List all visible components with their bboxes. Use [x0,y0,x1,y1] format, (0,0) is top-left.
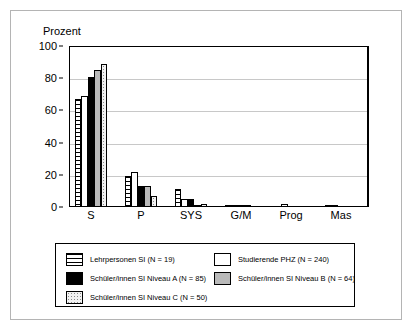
x-tick-label: P [137,209,144,221]
legend-label: Studierende PHZ (N = 240) [238,255,329,264]
gridline [70,176,367,177]
chart-legend: Lehrpersonen SI (N = 19)Studierende PHZ … [55,243,355,307]
y-tick-label: 60 [45,104,57,116]
legend-label: Schüler/innen SI Niveau A (N = 85) [90,274,206,283]
plot-area [69,46,369,207]
chart-figure: Prozent 020406080100 SPSYSG/MProgMas Leh… [10,10,402,320]
y-axis-title: Prozent [43,25,81,37]
y-tick-label: 80 [45,72,57,84]
y-tick-mark [59,78,63,79]
legend-item: Schüler/innen SI Niveau C (N = 50) [66,291,207,304]
x-tick-label: SYS [180,209,202,221]
y-tick-mark [59,174,63,175]
legend-label: Schüler/innen SI Niveau C (N = 50) [90,293,207,302]
y-tick-label: 100 [39,40,57,52]
x-tick-label: S [87,209,94,221]
legend-swatch [66,253,83,266]
legend-label: Lehrpersonen SI (N = 19) [90,255,175,264]
gridline [70,111,367,112]
y-tick-mark [59,46,63,47]
legend-item: Studierende PHZ (N = 240) [214,253,329,266]
x-tick-label: G/M [231,209,252,221]
y-tick-label: 20 [45,169,57,181]
y-tick-label: 0 [51,201,57,213]
y-tick-mark [59,207,63,208]
legend-item: Schüler/innen SI Niveau A (N = 85) [66,272,206,285]
y-tick-label: 40 [45,137,57,149]
gridline [70,79,367,80]
y-axis-ticks: 020406080100 [29,46,63,207]
x-tick-label: Prog [279,209,302,221]
x-tick-label: Mas [331,209,352,221]
legend-item: Lehrpersonen SI (N = 19) [66,253,175,266]
legend-item: Schüler/innen SI Niveau B (N = 64) [214,272,355,285]
legend-label: Schüler/innen SI Niveau B (N = 64) [238,274,355,283]
legend-swatch [66,291,83,304]
gridlines [70,47,367,206]
legend-swatch [66,272,83,285]
legend-swatch [214,253,231,266]
x-axis-ticks: SPSYSG/MProgMas [69,209,369,227]
y-tick-mark [59,110,63,111]
y-tick-mark [59,142,63,143]
legend-swatch [214,272,231,285]
gridline [70,144,367,145]
